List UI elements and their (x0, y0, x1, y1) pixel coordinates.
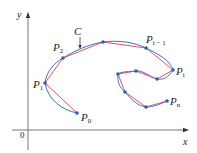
label-p1: P1 (32, 78, 44, 92)
point (101, 40, 105, 44)
curve-diagram: y 0 x C P0 P1 P2 Pi − 1 Pi Pn (0, 0, 197, 153)
curve-c (45, 41, 173, 113)
point-pi-minus-1 (144, 46, 148, 50)
label-p0: P0 (80, 111, 92, 125)
point-p2 (61, 56, 65, 60)
point (144, 105, 148, 109)
polygonal-path (45, 42, 173, 113)
point-p0 (75, 111, 79, 115)
point (155, 77, 159, 81)
origin-label: 0 (20, 130, 25, 140)
label-pi: Pi (175, 65, 185, 79)
x-axis-label: x (182, 136, 188, 147)
curve-label: C (74, 25, 82, 37)
point (134, 69, 138, 73)
point (116, 72, 120, 76)
label-pn: Pn (169, 95, 181, 109)
y-axis-label: y (16, 9, 22, 20)
point (123, 90, 127, 94)
curve-label-group: C (74, 25, 82, 49)
point-p1 (43, 81, 47, 85)
x-axis-arrow-icon (183, 128, 189, 132)
label-pi-minus-1: Pi − 1 (145, 33, 166, 47)
y-axis-arrow-icon (26, 12, 30, 18)
label-p2: P2 (52, 41, 64, 55)
point-pn (165, 99, 169, 103)
point-pi (171, 68, 175, 72)
